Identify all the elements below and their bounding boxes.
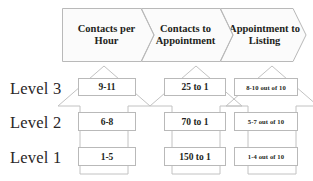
- row-label-level-1: Level 1: [10, 148, 72, 168]
- row-label-level-2: Level 2: [10, 113, 72, 133]
- cell-level1-contacts-to-appointment[interactable]: 150 to 1: [164, 147, 226, 166]
- cell-value: 150 to 1: [179, 152, 211, 162]
- stage-chevron-label: Contacts to Appointment: [149, 23, 223, 48]
- cell-level2-contacts-to-appointment[interactable]: 70 to 1: [164, 112, 226, 131]
- cell-value: 1-5: [101, 152, 114, 162]
- stage-chevron-label: Contacts per Hour: [70, 23, 144, 48]
- cell-level2-contacts-per-hour[interactable]: 6-8: [78, 112, 136, 131]
- cell-value: 70 to 1: [182, 117, 209, 127]
- cell-value: 6-8: [101, 117, 114, 127]
- cell-value: 5-7 out of 10: [248, 118, 284, 125]
- process-level-matrix-diagram: Contacts per Hour Contacts to Appointmen…: [0, 0, 313, 181]
- cell-level3-contacts-per-hour[interactable]: 9-11: [78, 78, 136, 96]
- cell-level3-contacts-to-appointment[interactable]: 25 to 1: [164, 78, 226, 96]
- row-label-level-3: Level 3: [10, 79, 72, 99]
- stage-banner: Contacts per Hour Contacts to Appointmen…: [62, 8, 307, 62]
- cell-level3-appointment-to-listing[interactable]: 8-10 out of 10: [234, 78, 298, 96]
- stage-chevron-contacts-per-hour[interactable]: Contacts per Hour: [62, 8, 154, 62]
- cell-value: 9-11: [99, 82, 116, 92]
- cell-level1-appointment-to-listing[interactable]: 1-4 out of 10: [234, 147, 298, 166]
- cell-value: 25 to 1: [182, 82, 209, 92]
- stage-chevron-appointment-to-listing[interactable]: Appointment to Listing: [220, 8, 307, 62]
- cell-value: 8-10 out of 10: [246, 84, 286, 91]
- stage-chevron-label: Appointment to Listing: [228, 23, 302, 48]
- cell-level1-contacts-per-hour[interactable]: 1-5: [78, 147, 136, 166]
- stage-chevron-contacts-to-appointment[interactable]: Contacts to Appointment: [141, 8, 233, 62]
- cell-level2-appointment-to-listing[interactable]: 5-7 out of 10: [234, 112, 298, 131]
- cell-value: 1-4 out of 10: [248, 153, 284, 160]
